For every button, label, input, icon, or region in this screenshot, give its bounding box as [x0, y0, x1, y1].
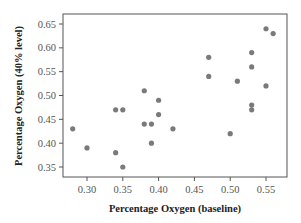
data-point	[235, 79, 240, 84]
x-tick-label: 0.55	[257, 184, 275, 195]
x-axis: 0.300.350.400.450.500.55	[78, 177, 275, 195]
data-point	[113, 150, 118, 155]
data-point	[113, 107, 118, 112]
y-tick-label: 0.55	[38, 66, 56, 77]
data-point	[170, 126, 175, 131]
y-tick-label: 0.65	[38, 19, 56, 30]
y-tick-label: 0.45	[38, 114, 56, 125]
data-point	[142, 88, 147, 93]
data-point	[70, 126, 75, 131]
x-tick-label: 0.45	[185, 184, 203, 195]
y-axis: 0.350.400.450.500.550.600.65	[38, 19, 63, 173]
data-point	[271, 31, 276, 36]
plot-frame	[63, 14, 287, 177]
y-tick-label: 0.40	[38, 138, 56, 149]
data-point	[149, 141, 154, 146]
x-axis-title: Percentage Oxygen (baseline)	[109, 203, 242, 215]
data-point	[206, 55, 211, 60]
x-tick-label: 0.50	[221, 184, 239, 195]
data-point	[206, 74, 211, 79]
data-point	[84, 145, 89, 150]
data-point	[142, 122, 147, 127]
x-tick-label: 0.40	[149, 184, 167, 195]
y-tick-label: 0.35	[38, 162, 56, 173]
data-point	[120, 107, 125, 112]
data-point	[249, 107, 254, 112]
x-tick-label: 0.30	[78, 184, 96, 195]
data-point	[263, 83, 268, 88]
data-point	[263, 26, 268, 31]
data-point	[249, 64, 254, 69]
scatter-chart: 0.300.350.400.450.500.55 0.350.400.450.5…	[0, 0, 301, 223]
x-tick-label: 0.35	[114, 184, 132, 195]
data-point	[156, 112, 161, 117]
data-point	[120, 164, 125, 169]
data-point	[249, 50, 254, 55]
data-point	[249, 102, 254, 107]
y-tick-label: 0.50	[38, 90, 56, 101]
data-point	[228, 131, 233, 136]
data-point	[149, 122, 154, 127]
y-tick-label: 0.60	[38, 42, 56, 53]
data-point	[156, 98, 161, 103]
y-axis-title: Percentage Oxygen (40% level)	[13, 25, 25, 166]
